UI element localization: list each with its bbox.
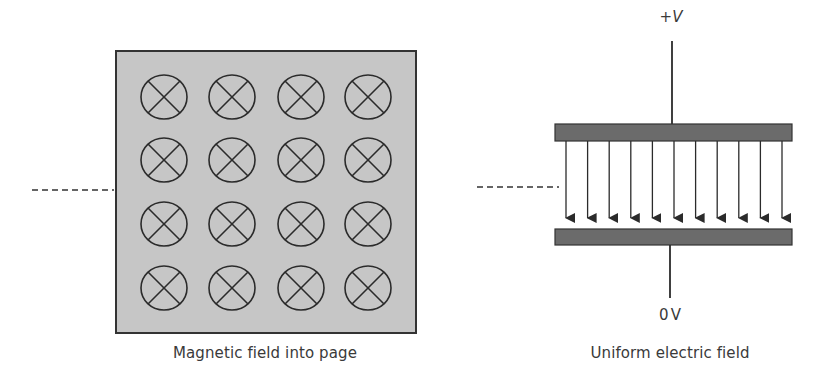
- positive-sign: +: [660, 8, 673, 26]
- zero-voltage-label: 0V: [659, 306, 683, 324]
- bottom-plate-zero: [555, 229, 792, 245]
- electric-field-panel: [477, 41, 792, 298]
- positive-voltage-label: +V: [660, 8, 683, 26]
- physics-diagram: [0, 0, 829, 377]
- magnetic-field-caption: Magnetic field into page: [173, 344, 357, 362]
- voltage-symbol: V: [672, 8, 682, 26]
- electric-field-arrows: [566, 141, 782, 218]
- magnetic-field-panel: [32, 51, 416, 333]
- top-plate-positive: [555, 124, 792, 141]
- electric-field-caption: Uniform electric field: [590, 344, 749, 362]
